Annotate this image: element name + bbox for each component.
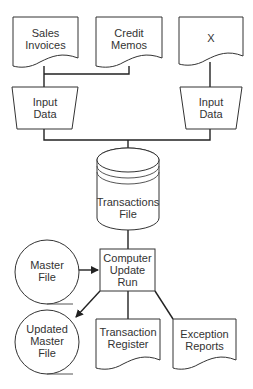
exception-reports-label: Exception Reports [173, 328, 236, 352]
transaction-register-label: Transaction Register [93, 326, 163, 350]
updated-master-file-label: Updated Master File [15, 323, 79, 359]
input-data-left-label: Input Data [12, 96, 78, 120]
master-file-label: Master File [15, 259, 79, 283]
transactions-file-label: Transactions File [94, 196, 162, 220]
input-data-right-label: Input Data [180, 96, 242, 120]
sales-invoices-label: Sales Invoices [13, 27, 78, 51]
x-label: X [179, 32, 243, 44]
computer-update-run-label: Computer Update Run [98, 252, 157, 288]
credit-memos-label: Credit Memos [96, 27, 162, 51]
